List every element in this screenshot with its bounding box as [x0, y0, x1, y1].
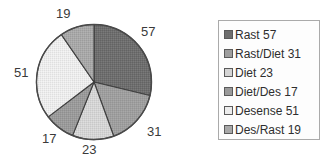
- legend-item-diet-des[interactable]: Diet/Des 17: [224, 82, 319, 101]
- legend-label: Diet/Des 17: [235, 86, 298, 98]
- legend-label: Desense 51: [235, 105, 299, 117]
- chart-legend: Rast 57 Rast/Diet 31 Diet 23 Diet/Des 17…: [218, 20, 320, 140]
- pie-value-label-rast: 57: [141, 24, 155, 39]
- legend-swatch-icon: [224, 87, 233, 96]
- legend-label: Diet 23: [235, 67, 273, 79]
- pie-value-label-diet-des: 17: [42, 131, 56, 146]
- legend-swatch-icon: [224, 49, 233, 58]
- legend-label: Des/Rast 19: [235, 124, 301, 136]
- legend-item-desense[interactable]: Desense 51: [224, 101, 319, 120]
- legend-item-des-rast[interactable]: Des/Rast 19: [224, 120, 319, 139]
- legend-label: Rast/Diet 31: [235, 48, 301, 60]
- pie-value-label-rast-diet: 31: [147, 124, 161, 139]
- pie-chart-figure: 57 31 23 17 51 19 Rast 57 Rast/Diet 31 D…: [0, 0, 330, 162]
- pie-plot-area: 57 31 23 17 51 19: [0, 0, 210, 162]
- legend-swatch-icon: [224, 125, 233, 134]
- pie-value-label-diet: 23: [82, 142, 96, 157]
- legend-swatch-icon: [224, 106, 233, 115]
- pie-value-label-des-rast: 19: [56, 6, 70, 21]
- legend-swatch-icon: [224, 68, 233, 77]
- legend-item-diet[interactable]: Diet 23: [224, 63, 319, 82]
- legend-label: Rast 57: [235, 29, 276, 41]
- pie-svg: [34, 22, 154, 142]
- legend-swatch-icon: [224, 30, 233, 39]
- legend-item-rast-diet[interactable]: Rast/Diet 31: [224, 44, 319, 63]
- pie-value-label-desense: 51: [14, 65, 28, 80]
- legend-item-rast[interactable]: Rast 57: [224, 25, 319, 44]
